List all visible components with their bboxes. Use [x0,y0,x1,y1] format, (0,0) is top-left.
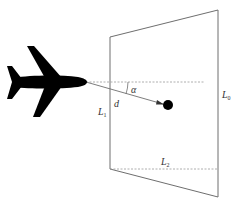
angle-arc-alpha [126,82,128,94]
label-L1: L1 [97,106,107,118]
target-point [163,100,173,110]
label-d: d [114,98,120,109]
label-L2: L2 [160,156,170,168]
label-L0: L0 [221,89,231,101]
line-of-sight [86,82,163,104]
label-alpha: α [131,84,137,95]
line-of-sight-arrowhead [156,100,164,105]
airplane-icon [7,46,87,117]
diagram-canvas: α d L1 L0 L2 [0,0,235,198]
